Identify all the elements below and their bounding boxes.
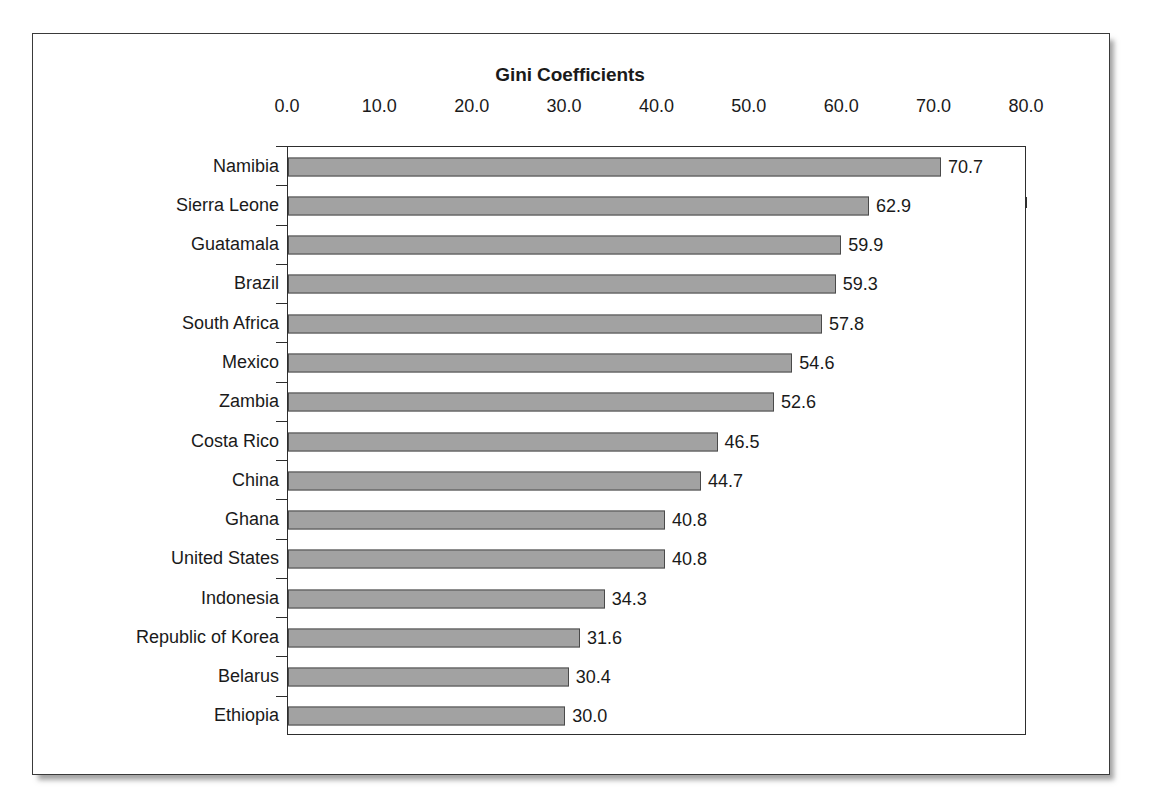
y-tick-mark bbox=[276, 539, 287, 540]
y-category-label: South Africa bbox=[182, 312, 279, 333]
bar-value-label: 30.4 bbox=[576, 667, 611, 688]
x-tick-label: 80.0 bbox=[1008, 96, 1043, 117]
y-tick-mark bbox=[276, 264, 287, 265]
x-tick-label: 40.0 bbox=[639, 96, 674, 117]
bar bbox=[288, 393, 774, 412]
bars-layer: 70.762.959.959.357.854.652.646.544.740.8… bbox=[288, 147, 1027, 736]
y-tick-mark bbox=[276, 499, 287, 500]
bar bbox=[288, 236, 841, 255]
y-category-label: United States bbox=[171, 548, 279, 569]
y-axis-category-labels: NamibiaSierra LeoneGuatamalaBrazilSouth … bbox=[33, 146, 279, 735]
bar bbox=[288, 511, 665, 530]
y-tick-mark bbox=[276, 185, 287, 186]
y-category-label: Ethiopia bbox=[214, 705, 279, 726]
bar bbox=[288, 432, 718, 451]
y-category-label: China bbox=[232, 469, 279, 490]
x-axis-tick-labels: 0.010.020.030.040.050.060.070.080.0 bbox=[287, 96, 1026, 122]
y-category-label: Ghana bbox=[225, 509, 279, 530]
x-tick-label: 50.0 bbox=[731, 96, 766, 117]
bar-value-label: 40.8 bbox=[672, 549, 707, 570]
bar-value-label: 59.3 bbox=[843, 274, 878, 295]
bar-value-label: 31.6 bbox=[587, 627, 622, 648]
y-tick-mark bbox=[276, 225, 287, 226]
y-category-label: Sierra Leone bbox=[176, 194, 279, 215]
bar bbox=[288, 157, 941, 176]
figure-frame: Gini Coefficients 0.010.020.030.040.050.… bbox=[32, 33, 1110, 775]
bar-value-label: 70.7 bbox=[948, 156, 983, 177]
chart-title: Gini Coefficients bbox=[163, 64, 977, 86]
y-category-label: Brazil bbox=[234, 273, 279, 294]
y-tick-mark bbox=[276, 146, 287, 147]
y-category-label: Costa Rico bbox=[191, 430, 279, 451]
bar-value-label: 59.9 bbox=[848, 235, 883, 256]
y-tick-mark bbox=[276, 382, 287, 383]
bar bbox=[288, 471, 701, 490]
bar bbox=[288, 628, 580, 647]
bar bbox=[288, 314, 822, 333]
x-tick-label: 70.0 bbox=[916, 96, 951, 117]
x-tick-label: 30.0 bbox=[547, 96, 582, 117]
y-tick-mark bbox=[276, 696, 287, 697]
bar bbox=[288, 668, 569, 687]
y-category-label: Guatamala bbox=[191, 234, 279, 255]
y-category-label: Republic of Korea bbox=[136, 626, 279, 647]
y-tick-mark bbox=[276, 342, 287, 343]
y-category-label: Belarus bbox=[218, 666, 279, 687]
x-tick-label: 60.0 bbox=[824, 96, 859, 117]
y-tick-mark bbox=[276, 460, 287, 461]
y-tick-mark bbox=[276, 303, 287, 304]
y-category-label: Zambia bbox=[219, 391, 279, 412]
x-tick-label: 20.0 bbox=[454, 96, 489, 117]
y-tick-mark bbox=[276, 421, 287, 422]
bar bbox=[288, 353, 792, 372]
bar-value-label: 62.9 bbox=[876, 195, 911, 216]
bar-value-label: 52.6 bbox=[781, 392, 816, 413]
bar bbox=[288, 589, 605, 608]
y-tick-mark bbox=[276, 656, 287, 657]
y-category-label: Namibia bbox=[213, 155, 279, 176]
bar-value-label: 46.5 bbox=[725, 431, 760, 452]
bar-value-label: 44.7 bbox=[708, 470, 743, 491]
plot-area: 70.762.959.959.357.854.652.646.544.740.8… bbox=[287, 146, 1026, 735]
x-tick-label: 0.0 bbox=[274, 96, 299, 117]
bar bbox=[288, 196, 869, 215]
bar bbox=[288, 707, 565, 726]
x-tick-label: 10.0 bbox=[362, 96, 397, 117]
bar-value-label: 34.3 bbox=[612, 588, 647, 609]
y-tick-mark bbox=[276, 617, 287, 618]
y-tick-mark bbox=[276, 578, 287, 579]
y-category-label: Mexico bbox=[222, 351, 279, 372]
bar-value-label: 30.0 bbox=[572, 706, 607, 727]
bar-value-label: 40.8 bbox=[672, 510, 707, 531]
bar-value-label: 54.6 bbox=[799, 352, 834, 373]
bar bbox=[288, 550, 665, 569]
bar-value-label: 57.8 bbox=[829, 313, 864, 334]
y-category-label: Indonesia bbox=[201, 587, 279, 608]
bar bbox=[288, 275, 836, 294]
gini-coefficients-bar-chart: Gini Coefficients 0.010.020.030.040.050.… bbox=[33, 34, 1111, 776]
